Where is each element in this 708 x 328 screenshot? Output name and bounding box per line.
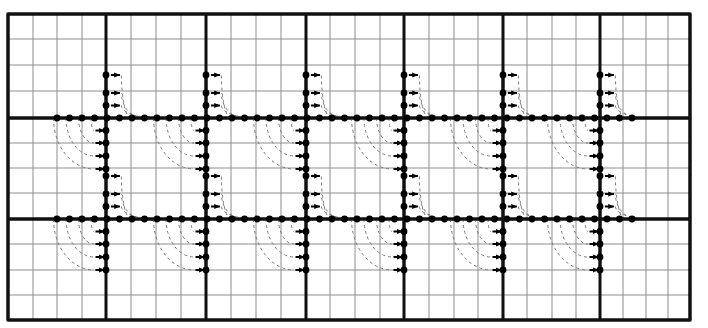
lattice-node [316, 216, 323, 223]
lattice-node [203, 90, 210, 97]
lattice-node [354, 115, 361, 122]
lattice-node [579, 216, 586, 223]
lattice-node [103, 241, 110, 248]
lattice-node [66, 115, 73, 122]
lattice-node [597, 72, 604, 79]
lattice-node [103, 173, 110, 180]
lattice-node [504, 115, 511, 122]
lattice-node [103, 254, 110, 261]
lattice-node [401, 173, 408, 180]
lattice-node [401, 203, 408, 210]
lattice-node [566, 115, 573, 122]
lattice-node [466, 115, 473, 122]
lattice-node [303, 241, 310, 248]
lattice-node [500, 191, 507, 198]
lattice-node [154, 216, 161, 223]
lattice-node [103, 127, 110, 134]
lattice-node [54, 216, 61, 223]
lattice-node [303, 191, 310, 198]
lattice-node [103, 267, 110, 274]
lattice-node [597, 140, 604, 147]
lattice-node [266, 115, 273, 122]
lattice-node [479, 216, 486, 223]
lattice-node [79, 115, 86, 122]
lattice-node [103, 140, 110, 147]
lattice-node [341, 115, 348, 122]
lattice-node [597, 267, 604, 274]
lattice-node [104, 115, 111, 122]
lattice-node [441, 216, 448, 223]
lattice-node [597, 173, 604, 180]
lattice-node [216, 115, 223, 122]
lattice-node [500, 72, 507, 79]
lattice-node [66, 216, 73, 223]
lattice-node [279, 216, 286, 223]
lattice-node [191, 216, 198, 223]
lattice-node [454, 115, 461, 122]
lattice-node [303, 127, 310, 134]
lattice-node [529, 115, 536, 122]
lattice-node [366, 216, 373, 223]
lattice-node [129, 216, 136, 223]
lattice-node [597, 191, 604, 198]
lattice-node [141, 216, 148, 223]
lattice-node [304, 115, 311, 122]
lattice-node [303, 90, 310, 97]
lattice-node [79, 216, 86, 223]
lattice-node [416, 216, 423, 223]
lattice-node [401, 228, 408, 235]
lattice-node [203, 173, 210, 180]
lattice-node [416, 115, 423, 122]
lattice-node [341, 216, 348, 223]
lattice-node [391, 115, 398, 122]
lattice-node [329, 216, 336, 223]
lattice-node [229, 216, 236, 223]
lattice-node [554, 216, 561, 223]
lattice-node [401, 102, 408, 109]
lattice-node [266, 216, 273, 223]
lattice-node [401, 166, 408, 173]
lattice-node [203, 127, 210, 134]
lattice-node [541, 115, 548, 122]
lattice-node [91, 216, 98, 223]
lattice-node [597, 166, 604, 173]
lattice-node [597, 254, 604, 261]
lattice-node [166, 115, 173, 122]
lattice-node [303, 203, 310, 210]
lattice-node [179, 216, 186, 223]
lattice-node [591, 216, 598, 223]
lattice-node [597, 90, 604, 97]
lattice-node [203, 140, 210, 147]
lattice-node [303, 153, 310, 160]
lattice-node [554, 115, 561, 122]
lattice-node [404, 216, 411, 223]
lattice-node [316, 115, 323, 122]
lattice-node [129, 115, 136, 122]
lattice-node [203, 228, 210, 235]
lattice-node [203, 267, 210, 274]
lattice-node [454, 216, 461, 223]
lattice-node [541, 216, 548, 223]
lattice-node [291, 115, 298, 122]
lattice-node [604, 115, 611, 122]
lattice-node [354, 216, 361, 223]
lattice-node [429, 216, 436, 223]
lattice-node [401, 267, 408, 274]
lattice-node [629, 216, 636, 223]
lattice-node [500, 267, 507, 274]
lattice-node [479, 115, 486, 122]
lattice-node [229, 115, 236, 122]
lattice-node [203, 241, 210, 248]
lattice-node [629, 115, 636, 122]
lattice-node [203, 191, 210, 198]
lattice-node [404, 115, 411, 122]
lattice-node [500, 102, 507, 109]
lattice-node [103, 228, 110, 235]
lattice-node [516, 115, 523, 122]
lattice-node [103, 90, 110, 97]
lattice-node [303, 228, 310, 235]
lattice-node [491, 216, 498, 223]
lattice-node [254, 216, 261, 223]
lattice-node [441, 115, 448, 122]
lattice-node [103, 191, 110, 198]
